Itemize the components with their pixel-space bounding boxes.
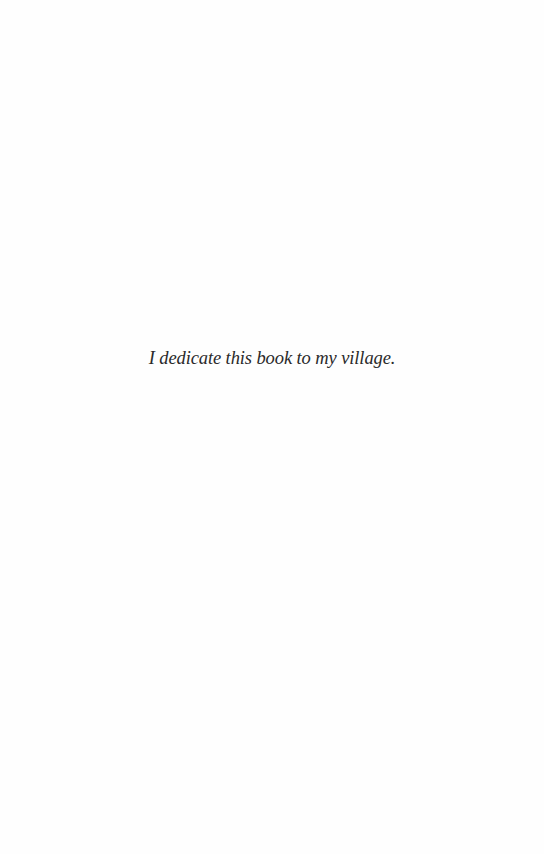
- book-page: I dedicate this book to my village.: [0, 0, 544, 854]
- dedication-text: I dedicate this book to my village.: [0, 346, 544, 370]
